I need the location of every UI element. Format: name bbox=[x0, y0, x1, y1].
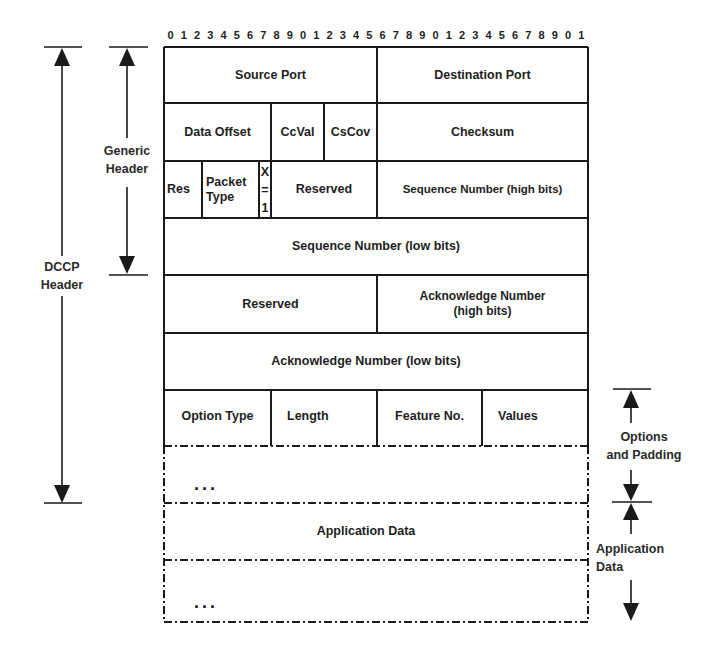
application-data-label: Application Data bbox=[596, 540, 668, 576]
generic-header-label-line1: Generic bbox=[98, 142, 156, 160]
dccp-header-label: DCCP Header bbox=[32, 258, 92, 294]
field-source-port: Source Port bbox=[164, 47, 377, 103]
field-reserved: Reserved bbox=[271, 161, 377, 218]
field-x-flag: X = 1 bbox=[259, 161, 271, 218]
field-option-type: Option Type bbox=[164, 390, 271, 442]
field-checksum: Checksum bbox=[377, 103, 588, 161]
field-data-offset: Data Offset bbox=[164, 103, 271, 161]
dccp-header-label-line2: Header bbox=[32, 276, 92, 294]
field-values: Values bbox=[482, 390, 588, 442]
field-length: Length bbox=[271, 390, 377, 442]
field-application-data: Application Data bbox=[164, 503, 588, 560]
options-padding-label-line2: and Padding bbox=[598, 446, 690, 464]
field-destination-port: Destination Port bbox=[377, 47, 588, 103]
application-data-ellipsis: ... bbox=[194, 592, 218, 613]
field-ccval: CcVal bbox=[271, 103, 324, 161]
x-flag-letter: X bbox=[261, 163, 269, 181]
options-padding-label-line1: Options bbox=[598, 428, 690, 446]
field-res: Res bbox=[164, 161, 202, 218]
generic-header-label: Generic Header bbox=[98, 142, 156, 178]
field-feature-no: Feature No. bbox=[377, 390, 482, 442]
application-data-label-line1: Application bbox=[596, 540, 668, 558]
x-flag-equals: = bbox=[261, 181, 268, 199]
x-flag-value: 1 bbox=[262, 199, 269, 217]
field-packet-type-line2: Type bbox=[206, 190, 234, 205]
application-data-label-line2: Data bbox=[596, 558, 668, 576]
options-padding-label: Options and Padding bbox=[598, 428, 690, 464]
field-sequence-number-high: Sequence Number (high bits) bbox=[377, 161, 588, 218]
generic-header-label-line2: Header bbox=[98, 160, 156, 178]
field-acknowledge-number-low: Acknowledge Number (low bits) bbox=[164, 333, 588, 390]
ack-high-line1: Acknowledge Number bbox=[419, 289, 545, 304]
field-acknowledge-number-high: Acknowledge Number (high bits) bbox=[377, 275, 588, 333]
field-reserved-ack: Reserved bbox=[164, 275, 377, 333]
field-sequence-number-low: Sequence Number (low bits) bbox=[164, 218, 588, 275]
options-ellipsis: ... bbox=[194, 474, 218, 495]
field-packet-type-line1: Packet bbox=[206, 175, 246, 190]
ack-high-line2: (high bits) bbox=[454, 304, 512, 319]
dccp-header-label-line1: DCCP bbox=[32, 258, 92, 276]
field-packet-type: Packet Type bbox=[202, 161, 259, 218]
field-cscov: CsCov bbox=[324, 103, 377, 161]
